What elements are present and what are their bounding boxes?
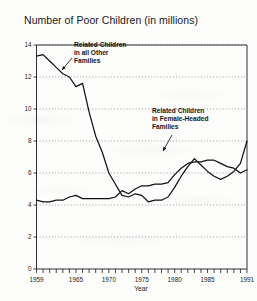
annotation-female-headed-families-line: Related Children: [152, 107, 204, 114]
series-annotations: Related Childrenin all OtherFamiliesRela…: [62, 41, 208, 151]
x-tick-label: 1959: [29, 276, 44, 283]
data-series: [37, 55, 248, 202]
x-axis-ticks: 1959196519701975198019851991: [29, 269, 254, 283]
x-tick-label: 1980: [168, 276, 183, 283]
x-axis-title: Year: [134, 285, 148, 292]
y-tick-label: 8: [28, 137, 32, 144]
y-tick-label: 6: [28, 169, 32, 176]
series-line-all-other-families: [37, 55, 248, 202]
x-tick-label: 1991: [240, 276, 255, 283]
plot-frame: [37, 45, 248, 269]
x-tick-label: 1985: [200, 276, 215, 283]
y-axis-ticks: 02468101214: [24, 41, 36, 272]
x-tick-label: 1970: [102, 276, 117, 283]
y-tick-label: 12: [24, 73, 32, 80]
x-tick-label: 1965: [69, 276, 84, 283]
plot-area: 02468101214 1959196519701975198019851991…: [0, 0, 257, 301]
y-tick-label: 0: [28, 265, 32, 272]
y-tick-label: 4: [28, 201, 32, 208]
y-tick-label: 14: [24, 41, 32, 48]
annotation-female-headed-families-line: in Female-Headed: [152, 115, 208, 122]
gridlines: [37, 45, 248, 237]
annotation-all-other-families-line: in all Other: [74, 49, 109, 56]
y-tick-label: 10: [24, 105, 32, 112]
x-tick-label: 1975: [135, 276, 150, 283]
annotation-female-headed-families-line: Families: [152, 123, 179, 130]
annotation-all-other-families-line: Families: [74, 57, 101, 64]
y-tick-label: 2: [28, 233, 32, 240]
chart-figure: Number of Poor Children (in millions) 02…: [0, 0, 257, 301]
annotation-all-other-families-line: Related Children: [74, 41, 126, 48]
